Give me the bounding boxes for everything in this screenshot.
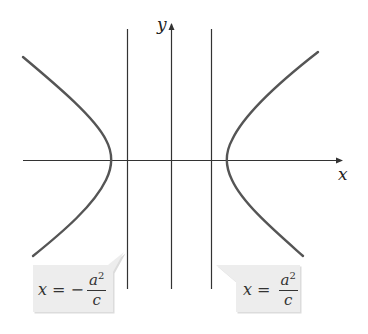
right-callout-fraction: a2 c	[279, 271, 298, 308]
left-directrix-callout: x = − a2 c	[38, 266, 106, 312]
hyperbola-diagram: y x x = − a2 c x = a2 c	[0, 0, 368, 334]
right-callout-denominator: c	[284, 291, 292, 308]
left-callout-denominator: c	[92, 291, 100, 308]
right-directrix-callout: x = a2 c	[243, 266, 298, 312]
left-callout-numerator: a2	[87, 271, 106, 291]
right-callout-lhs: x =	[243, 280, 276, 299]
x-axis-label: x	[338, 164, 348, 184]
hyperbola-right-branch	[227, 52, 318, 256]
y-axis-label: y	[157, 14, 167, 34]
right-callout-numerator: a2	[279, 271, 298, 291]
left-callout-fraction: a2 c	[87, 271, 106, 308]
left-callout-lhs: x = −	[38, 280, 84, 299]
hyperbola-left-branch	[23, 57, 111, 256]
